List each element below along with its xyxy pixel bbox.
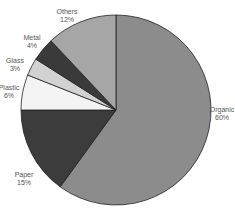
- pie-chart-svg: [0, 0, 235, 213]
- slice-label-paper: Paper15%: [15, 171, 34, 187]
- slice-label-metal: Metal4%: [23, 34, 40, 50]
- slice-label-name: Plastic: [0, 84, 19, 92]
- slice-label-percent: 3%: [6, 65, 24, 73]
- slice-label-name: Paper: [15, 171, 34, 179]
- slice-label-name: Others: [56, 8, 77, 16]
- slice-label-name: Organic: [210, 106, 235, 114]
- slice-label-plastic: Plastic6%: [0, 84, 19, 100]
- slice-label-organic: Organic60%: [210, 106, 235, 122]
- slice-label-percent: 6%: [0, 92, 19, 100]
- slice-label-name: Metal: [23, 34, 40, 42]
- slice-label-name: Glass: [6, 57, 24, 65]
- slice-label-percent: 60%: [210, 114, 235, 122]
- pie-chart: [0, 0, 235, 213]
- slice-label-others: Others12%: [56, 8, 77, 24]
- slice-label-percent: 12%: [56, 16, 77, 24]
- slice-label-glass: Glass3%: [6, 57, 24, 73]
- slice-label-percent: 4%: [23, 42, 40, 50]
- slice-label-percent: 15%: [15, 179, 34, 187]
